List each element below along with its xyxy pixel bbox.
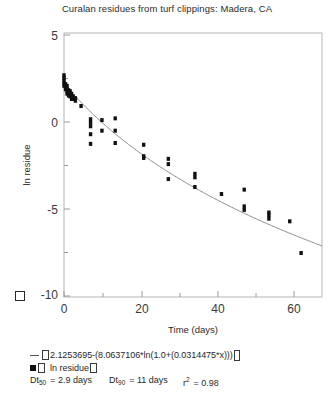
data-point (167, 157, 170, 161)
data-point (267, 213, 270, 217)
data-point (74, 99, 77, 103)
x-tick-label-40: 40 (211, 302, 225, 316)
data-point (114, 129, 117, 133)
data-point (89, 117, 92, 121)
data-point (114, 116, 117, 120)
legend-stats-row: Dt50= 2.9 days Dt90= 11 days r2= 0.98 (30, 374, 330, 390)
dt90-label: Dt (109, 375, 118, 385)
data-point (114, 141, 117, 145)
missing-glyph-box (15, 291, 25, 301)
data-point (79, 104, 82, 108)
dt90-subscript: 90 (118, 379, 125, 386)
missing-glyph-icon-end (234, 350, 240, 361)
data-point (243, 204, 246, 208)
dt50-label: Dt (30, 375, 39, 385)
data-point (220, 192, 223, 196)
dt50-subscript: 50 (39, 379, 46, 386)
figure-container: Curalan residues from turf clippings: Ma… (0, 0, 334, 407)
legend-equation-text: 2.1253695-(8.0637106*ln(1.0+(0.0314475*x… (50, 349, 233, 362)
data-point (167, 162, 170, 166)
dt50-value: = 2.9 days (50, 375, 92, 385)
y-tick-label-0: 0 (51, 116, 58, 130)
legend-equation-row: 2.1253695-(8.0637106*ln(1.0+(0.0314475*x… (30, 349, 330, 362)
fitted-curve (64, 84, 322, 246)
data-point (100, 129, 103, 133)
axes-frame (64, 33, 322, 297)
y-tick-label-minus5: -5 (47, 203, 58, 217)
data-point (193, 175, 196, 179)
data-point (167, 177, 170, 181)
x-tick-label-0: 0 (61, 302, 68, 316)
r2-superscript: 2 (186, 376, 190, 383)
data-point (142, 156, 145, 160)
legend-series-row: ln residue (30, 362, 330, 375)
data-point (267, 217, 270, 221)
x-tick-label-20: 20 (135, 302, 149, 316)
data-point (243, 188, 246, 192)
data-point (89, 132, 92, 136)
curve-line-swatch (30, 355, 39, 356)
y-tick-label-5: 5 (51, 29, 58, 43)
data-point (142, 143, 145, 147)
data-point (299, 251, 302, 255)
stat-r-squared: r2= 0.98 (183, 374, 219, 390)
x-tick-label-60: 60 (287, 302, 301, 316)
data-point (243, 208, 246, 212)
data-point (89, 124, 92, 128)
data-point-group (62, 73, 303, 255)
data-point (100, 118, 103, 122)
stat-dt50: Dt50= 2.9 days (30, 374, 92, 390)
square-marker-icon (30, 365, 36, 371)
data-point (193, 185, 196, 189)
stat-dt90: Dt90= 11 days (109, 374, 168, 390)
legend-block: 2.1253695-(8.0637106*ln(1.0+(0.0314475*x… (30, 349, 330, 390)
x-axis-title: Time (days) (168, 324, 218, 335)
plot-area: 5 0 -5 -10 0 20 40 60 Time (days) ln res… (0, 0, 334, 407)
y-axis-title: ln residue (21, 144, 32, 185)
data-point (89, 121, 92, 125)
legend-series-label: ln residue (50, 362, 89, 375)
missing-glyph-icon-series-end (90, 363, 97, 373)
data-point (193, 172, 196, 176)
dt90-value: = 11 days (129, 375, 168, 385)
data-point (288, 219, 291, 223)
data-point (89, 142, 92, 146)
axis-ticks (64, 35, 294, 297)
r2-value: = 0.98 (194, 378, 219, 388)
y-tick-label-minus10: -10 (41, 288, 59, 302)
missing-glyph-icon (42, 350, 49, 360)
missing-glyph-icon-series (38, 363, 45, 373)
